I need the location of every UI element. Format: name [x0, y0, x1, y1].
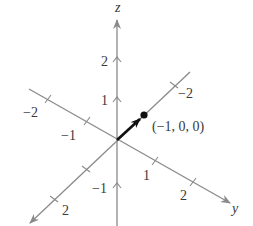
z-tick-label-neg1: −1: [92, 181, 107, 196]
z-axis: z 2 1 −1: [92, 0, 121, 226]
y-axis-label: y: [230, 201, 239, 216]
y-tick-label-1: 1: [143, 168, 150, 183]
y-tick-2: [190, 178, 196, 186]
y-tick-label-2: 2: [180, 188, 187, 203]
coordinate-diagram: z 2 1 −1 −2 −1 1 2 y −2 2 (−1, 0, 0): [0, 0, 253, 226]
y-axis: −2 −1 1 2 y: [23, 89, 239, 216]
point-label: (−1, 0, 0): [152, 119, 205, 135]
z-tick-label-1: 1: [101, 93, 108, 108]
z-axis-label: z: [114, 0, 121, 15]
y-tick-label-neg1: −1: [61, 128, 76, 143]
vector: [117, 119, 140, 140]
z-tick-label-2: 2: [101, 54, 108, 69]
point: (−1, 0, 0): [140, 111, 204, 135]
y-tick-label-neg2: −2: [23, 105, 38, 120]
x-axis: −2 2: [30, 72, 193, 223]
vector-arrow: [117, 119, 140, 140]
x-tick-label-neg2: −2: [178, 86, 193, 101]
point-marker: [140, 111, 147, 118]
x-tick-label-2: 2: [62, 203, 69, 218]
